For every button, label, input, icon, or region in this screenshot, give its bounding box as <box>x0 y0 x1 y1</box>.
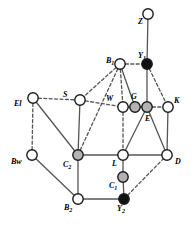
node-label-Z: Z <box>138 18 143 26</box>
node-label-B1: B1 <box>106 57 114 65</box>
node-G[interactable] <box>130 102 140 112</box>
edge-E-L <box>123 107 147 155</box>
node-label-C2: C2 <box>63 161 71 169</box>
node-K[interactable] <box>163 102 173 112</box>
node-Bw[interactable] <box>27 150 37 160</box>
node-label-D: D <box>175 158 181 166</box>
node-label-K: K <box>174 97 179 105</box>
nodes-layer <box>27 9 173 204</box>
graph-figure: ZB1Y1ElSWGEKBwC2LDC1B2Y2 <box>0 0 193 235</box>
node-C2[interactable] <box>73 150 83 160</box>
node-C1[interactable] <box>118 172 128 182</box>
node-label-G: G <box>131 93 137 101</box>
edge-Z-Y1 <box>147 14 148 64</box>
node-label-El: El <box>14 100 22 108</box>
node-W[interactable] <box>118 102 128 112</box>
node-B2[interactable] <box>73 194 83 204</box>
graph-canvas <box>0 0 193 235</box>
node-El[interactable] <box>28 93 38 103</box>
node-label-Y1: Y1 <box>138 52 146 60</box>
edge-B1-C2 <box>78 64 120 155</box>
node-B1[interactable] <box>115 59 125 69</box>
edge-El-C2 <box>33 98 78 155</box>
node-Y2[interactable] <box>119 194 129 204</box>
edge-El-Bw <box>32 98 33 155</box>
node-label-W: W <box>106 95 113 103</box>
node-label-Y2: Y2 <box>117 205 125 213</box>
edge-Y2-D <box>124 155 167 199</box>
edge-B1-S <box>80 64 120 100</box>
edge-K-D <box>167 107 168 155</box>
node-label-C1: C1 <box>109 182 117 190</box>
node-label-L: L <box>112 160 117 168</box>
node-label-E: E <box>145 115 150 123</box>
node-label-B2: B2 <box>64 204 72 212</box>
node-E[interactable] <box>142 102 152 112</box>
node-L[interactable] <box>118 150 128 160</box>
node-label-S: S <box>63 91 67 99</box>
node-D[interactable] <box>162 150 172 160</box>
node-Z[interactable] <box>143 9 153 19</box>
edge-Y1-K <box>147 64 168 107</box>
node-S[interactable] <box>75 95 85 105</box>
edge-S-C2 <box>78 100 80 155</box>
node-label-Bw: Bw <box>11 158 22 166</box>
edge-El-S <box>33 98 80 100</box>
edge-S-W <box>80 100 123 107</box>
